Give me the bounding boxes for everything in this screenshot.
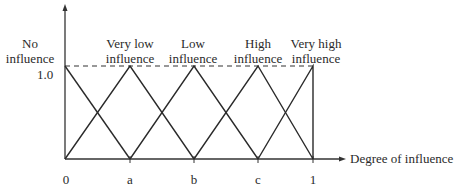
label-low-influence: Low influence: [160, 36, 226, 66]
x-axis-arrow-icon: [339, 157, 346, 162]
x-axis-label: Degree of influence: [350, 151, 453, 166]
x-tick-c: c: [248, 172, 268, 188]
x-tick-0: 0: [56, 172, 76, 188]
x-tick-b: b: [184, 172, 204, 188]
x-tick-a: a: [120, 172, 140, 188]
label-very-high-influence: Very high influence: [280, 36, 352, 66]
y-tick-1: 1.0: [30, 67, 60, 83]
y-axis-arrow-icon: [63, 4, 68, 11]
label-no-influence: No influence: [2, 36, 58, 66]
high-influence-curve: [194, 66, 313, 159]
x-tick-1: 1: [303, 172, 323, 188]
low-influence-curve: [130, 66, 258, 159]
very-low-influence-curve: [65, 66, 194, 159]
label-very-low-influence: Very low influence: [95, 36, 165, 66]
